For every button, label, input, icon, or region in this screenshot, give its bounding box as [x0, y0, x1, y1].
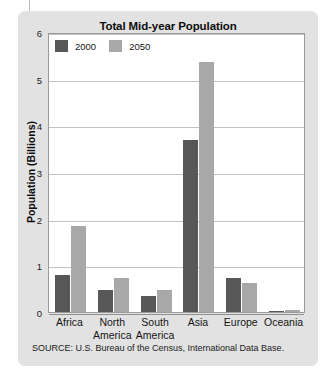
y-tick-label-1: 1 [37, 261, 42, 272]
legend-swatch-2000 [55, 40, 68, 52]
plot-area [48, 33, 305, 313]
source-note: SOURCE: U.S. Bureau of the Census, Inter… [32, 343, 284, 353]
bar-europe-2000[interactable] [226, 278, 241, 312]
chart-legend: 20002050 [55, 40, 150, 52]
legend-swatch-2050 [109, 40, 122, 52]
bar-group-north-america [98, 34, 129, 312]
bar-group-south-america [141, 34, 172, 312]
legend-label-2000: 2000 [75, 41, 96, 52]
bar-africa-2050[interactable] [71, 226, 86, 312]
y-tick-label-6: 6 [37, 28, 42, 39]
bar-group-europe [226, 34, 257, 312]
bar-africa-2000[interactable] [55, 275, 70, 312]
bar-asia-2050[interactable] [199, 62, 214, 312]
x-tick-label-oceania: Oceania [256, 316, 311, 329]
bar-group-africa [55, 34, 86, 312]
bar-north-america-2050[interactable] [114, 278, 129, 312]
legend-entry-2050[interactable]: 2050 [109, 40, 150, 52]
bar-europe-2050[interactable] [242, 283, 257, 312]
bars-layer [49, 34, 304, 312]
y-tick-label-2: 2 [37, 214, 42, 225]
gridline-0 [49, 314, 304, 315]
bar-asia-2000[interactable] [183, 140, 198, 312]
bar-south-america-2000[interactable] [141, 296, 156, 312]
bar-north-america-2000[interactable] [98, 290, 113, 312]
y-tick-label-5: 5 [37, 74, 42, 85]
bar-oceania-2000[interactable] [269, 311, 284, 312]
y-tick-label-3: 3 [37, 168, 42, 179]
bar-group-oceania [269, 34, 300, 312]
bar-group-asia [183, 34, 214, 312]
chart-title: Total Mid-year Population [18, 20, 318, 32]
bar-oceania-2050[interactable] [285, 310, 300, 312]
legend-entry-2000[interactable]: 2000 [55, 40, 96, 52]
bar-south-america-2050[interactable] [157, 290, 172, 312]
chart-card: Total Mid-year Population Population (Bi… [18, 11, 318, 366]
y-tick-label-4: 4 [37, 121, 42, 132]
y-axis-tick-labels: 0123456 [18, 33, 46, 313]
legend-label-2050: 2050 [129, 41, 150, 52]
